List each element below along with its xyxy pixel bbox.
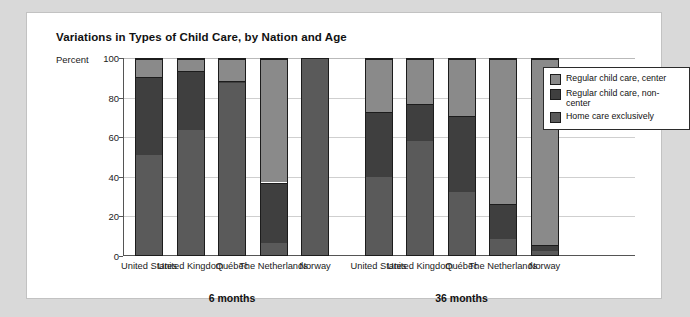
bar-6 — [406, 58, 434, 256]
bar-8-segment-0 — [490, 239, 516, 255]
bar-7 — [448, 58, 476, 256]
bar-6-segment-0 — [407, 141, 433, 255]
legend-label-non-center: Regular child care, non-center — [566, 88, 683, 108]
bar-1 — [177, 58, 205, 256]
bar-0-segment-1 — [136, 77, 162, 155]
y-tick-100: 100 — [103, 53, 119, 64]
bar-9-segment-1 — [532, 245, 558, 251]
bar-6-segment-1 — [407, 104, 433, 141]
bar-0-segment-2 — [136, 59, 162, 77]
chart-title: Variations in Types of Child Care, by Na… — [56, 31, 347, 43]
y-tick-40: 40 — [108, 171, 119, 182]
bar-2 — [218, 58, 246, 256]
bar-4-segment-0 — [302, 59, 328, 255]
bar-5 — [365, 58, 393, 256]
bar-6-segment-2 — [407, 59, 433, 104]
y-tick-20: 20 — [108, 211, 119, 222]
y-tick-80: 80 — [108, 92, 119, 103]
chart-legend: Regular child care, center Regular child… — [543, 67, 690, 130]
bar-8-segment-1 — [490, 204, 516, 239]
legend-swatch-home-care — [550, 112, 561, 123]
bar-1-segment-2 — [178, 59, 204, 71]
group-label-1: 36 months — [402, 292, 522, 304]
group-label-0: 6 months — [172, 292, 292, 304]
bar-3-segment-0 — [261, 243, 287, 255]
x-label-9: Norway — [508, 261, 582, 272]
legend-label-home-care: Home care exclusively — [566, 111, 654, 121]
bar-8-segment-2 — [490, 59, 516, 204]
legend-item-non-center: Regular child care, non-center — [550, 88, 683, 108]
bar-2-segment-0 — [219, 83, 245, 255]
y-tick-60: 60 — [108, 132, 119, 143]
y-axis-tick-labels: 100 80 60 40 20 0 — [67, 58, 119, 256]
bar-5-segment-2 — [366, 59, 392, 112]
bar-5-segment-0 — [366, 177, 392, 255]
legend-label-center: Regular child care, center — [566, 73, 666, 83]
bar-9-segment-0 — [532, 251, 558, 255]
bar-1-segment-1 — [178, 71, 204, 130]
tick-0 — [119, 256, 123, 257]
bar-0 — [135, 58, 163, 256]
legend-item-center: Regular child care, center — [550, 73, 683, 85]
bar-3 — [260, 58, 288, 256]
bar-7-segment-2 — [449, 59, 475, 116]
chart-card: Variations in Types of Child Care, by Na… — [26, 12, 662, 299]
bar-3-segment-1 — [261, 183, 287, 244]
y-axis-line — [123, 58, 124, 256]
bar-4 — [301, 58, 329, 256]
legend-swatch-non-center — [550, 89, 561, 100]
bar-2-segment-1 — [219, 81, 245, 83]
bar-2-segment-2 — [219, 59, 245, 81]
bar-0-segment-0 — [136, 155, 162, 255]
bar-7-segment-0 — [449, 192, 475, 255]
bar-3-segment-2 — [261, 59, 287, 182]
legend-swatch-center — [550, 74, 561, 85]
bar-8 — [489, 58, 517, 256]
bar-5-segment-1 — [366, 112, 392, 177]
legend-item-home-care: Home care exclusively — [550, 111, 683, 123]
bar-7-segment-1 — [449, 116, 475, 192]
bar-1-segment-0 — [178, 130, 204, 255]
